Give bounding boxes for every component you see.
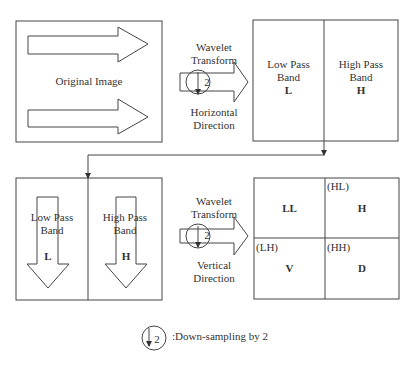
v-low-band-line2: Band	[16, 224, 88, 237]
step2-direction-line1: Vertical	[170, 259, 258, 272]
high-band-symbol: H	[324, 84, 398, 97]
v-high-band-line1: High Pass	[88, 211, 162, 224]
v-low-band-symbol: L	[16, 250, 80, 263]
step1-factor: 2	[200, 76, 214, 89]
v-high-band-line2: Band	[88, 224, 162, 237]
legend-text: :Down-sampling by 2	[172, 330, 268, 343]
step1-title-line1: Wavelet	[170, 41, 258, 54]
step2-direction-line2: Direction	[170, 272, 258, 285]
quad-hh-tag: (HH)	[327, 241, 350, 254]
step1-direction-line1: Horizontal	[170, 106, 258, 119]
step1-title-line2: Transform	[170, 54, 258, 67]
high-band-line1: High Pass	[324, 58, 398, 71]
v-low-band-line1: Low Pass	[16, 211, 88, 224]
quad-lh-tag: (LH)	[256, 241, 278, 254]
step1-direction-line2: Direction	[170, 119, 258, 132]
quad-hl-symbol: H	[325, 202, 399, 215]
transform-arrow-icon	[180, 217, 248, 255]
right-arrow-icon	[28, 27, 148, 62]
original-image-label: Original Image	[16, 75, 162, 88]
quad-hl-tag: (HL)	[327, 180, 349, 193]
step2-title-line2: Transform	[170, 208, 258, 221]
high-band-line2: Band	[324, 71, 398, 84]
legend-factor: 2	[151, 333, 163, 346]
quad-hh-symbol: D	[325, 262, 399, 275]
v-high-band-symbol: H	[88, 250, 164, 263]
low-band-symbol: L	[253, 84, 324, 97]
step2-title-line1: Wavelet	[170, 195, 258, 208]
vertical-bands-box	[16, 178, 162, 300]
low-band-line2: Band	[253, 71, 324, 84]
quad-lh-symbol: V	[254, 262, 325, 275]
step2-factor: 2	[200, 229, 214, 242]
transform-arrow-icon	[180, 62, 248, 102]
quad-ll-symbol: LL	[254, 202, 325, 215]
low-band-line1: Low Pass	[253, 58, 324, 71]
right-arrow-icon	[28, 99, 148, 134]
